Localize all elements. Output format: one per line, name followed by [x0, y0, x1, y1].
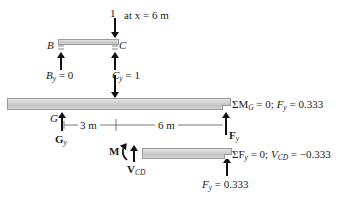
- force-equilibrium-equation: ΣFy = 0; VCD = −0.333: [232, 148, 331, 160]
- shear-vcd-label: VCD: [127, 163, 145, 175]
- upper-beam-bc: [58, 39, 119, 45]
- dimension-6m: 6 m: [158, 119, 175, 131]
- moment-label: M: [109, 145, 119, 157]
- reaction-by-label: By = 0: [46, 69, 73, 81]
- main-beam: [7, 98, 231, 110]
- reaction-cy-label: Cy = 1: [112, 69, 140, 81]
- moment-curved-arrow-icon: [123, 144, 127, 160]
- segment-beam-end-notch: [224, 154, 232, 159]
- dimension-3m: 3 m: [80, 119, 97, 131]
- moment-equilibrium-equation: ΣMG = 0; Fy = 0.333: [232, 98, 323, 110]
- reaction-fy-label: Fy: [229, 129, 239, 141]
- point-c-label: C: [119, 39, 126, 51]
- point-b-label: B: [47, 39, 54, 51]
- segment-fy-label: Fy = 0.333: [202, 178, 249, 190]
- segment-beam: [142, 148, 232, 159]
- point-g-label: G: [50, 112, 58, 124]
- reaction-gy-label: Gy: [55, 133, 67, 145]
- unit-load-magnitude: 1: [110, 7, 116, 19]
- main-beam-end-notch: [222, 105, 231, 110]
- unit-load-position: at x = 6 m: [124, 9, 169, 21]
